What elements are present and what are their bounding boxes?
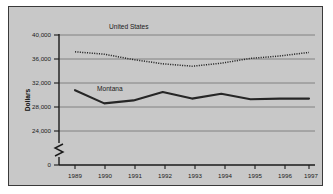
y-tick-label-24000: 24,000 — [32, 127, 51, 134]
gridlines — [59, 35, 315, 131]
y-tick-label-36000: 36,000 — [32, 55, 51, 62]
x-tick-label-1990: 1990 — [98, 172, 112, 179]
y-tickmarks — [54, 35, 59, 165]
chart-figure: 0 24,000 28,000 32,000 36,000 40,000 Dol… — [8, 6, 323, 186]
x-tick-label-1989: 1989 — [68, 172, 82, 179]
y-tick-label-32000: 32,000 — [32, 79, 51, 86]
y-tick-label-0: 0 — [48, 161, 52, 168]
series-label-montana: Montana — [97, 85, 123, 92]
series-line-montana — [75, 90, 309, 103]
axis-break-icon — [55, 144, 63, 156]
x-tick-label-1992: 1992 — [158, 172, 172, 179]
x-tick-label-1993: 1993 — [188, 172, 202, 179]
x-tick-label-1991: 1991 — [128, 172, 142, 179]
x-tick-label-1994: 1994 — [218, 172, 232, 179]
x-tick-label-1995: 1995 — [248, 172, 262, 179]
series-label-united-states: United States — [109, 23, 149, 30]
y-tick-label-28000: 28,000 — [32, 103, 51, 110]
x-tick-label-1997: 1997 — [304, 172, 318, 179]
line-chart: 0 24,000 28,000 32,000 36,000 40,000 Dol… — [9, 7, 324, 187]
y-axis-title: Dollars — [24, 88, 31, 111]
y-tick-label-40000: 40,000 — [32, 31, 51, 38]
x-tick-label-1996: 1996 — [278, 172, 292, 179]
